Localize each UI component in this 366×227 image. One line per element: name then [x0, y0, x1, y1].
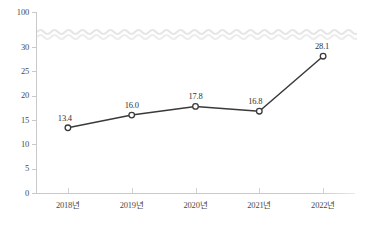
- x-axis-line: [36, 193, 355, 194]
- data-point-label: 16.8: [233, 96, 277, 106]
- x-tick-mark: [323, 188, 324, 193]
- x-tick-mark: [68, 188, 69, 193]
- data-point-marker: [257, 108, 263, 114]
- x-tick-mark: [259, 188, 260, 193]
- x-tick-mark: [132, 188, 133, 193]
- data-point-label: 13.4: [43, 113, 87, 123]
- y-tick-label: 100: [3, 7, 29, 17]
- y-tick-label: 0: [3, 188, 29, 198]
- x-tick-label: 2019년: [102, 198, 162, 210]
- y-tick-label: 15: [3, 115, 29, 125]
- axis-break-indicator: [37, 26, 357, 42]
- data-point-marker: [193, 104, 199, 110]
- line-chart: 051015202530100 13.416.017.816.828.1 201…: [0, 0, 366, 227]
- y-tick-label: 30: [3, 42, 29, 52]
- y-tick-mark: [32, 193, 36, 194]
- y-tick-label: 5: [3, 163, 29, 173]
- data-point-marker: [320, 53, 326, 59]
- x-tick-mark: [196, 188, 197, 193]
- y-tick-label: 20: [3, 90, 29, 100]
- y-tick-mark: [32, 169, 36, 170]
- x-tick-label: 2022년: [293, 198, 353, 210]
- x-tick-label: 2020년: [166, 198, 226, 210]
- y-tick-label: 25: [3, 66, 29, 76]
- y-tick-mark: [32, 144, 36, 145]
- data-point-label: 28.1: [300, 41, 344, 51]
- data-point-label: 17.8: [174, 91, 218, 101]
- y-tick-mark: [32, 12, 36, 13]
- x-tick-label: 2018년: [38, 198, 98, 210]
- x-tick-label: 2021년: [229, 198, 289, 210]
- data-point-marker: [65, 125, 71, 131]
- y-tick-label: 10: [3, 139, 29, 149]
- y-tick-mark: [32, 71, 36, 72]
- y-tick-mark: [32, 96, 36, 97]
- y-tick-mark: [32, 120, 36, 121]
- data-point-label: 16.0: [110, 100, 154, 110]
- data-point-marker: [129, 112, 135, 118]
- y-tick-mark: [32, 47, 36, 48]
